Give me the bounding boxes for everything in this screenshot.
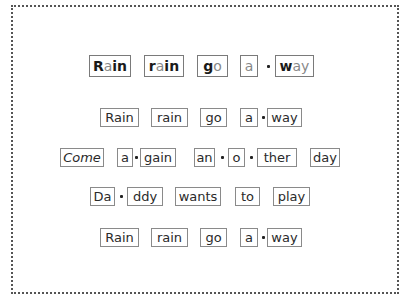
syllable-way: way: [267, 108, 302, 127]
vowel: a: [245, 58, 254, 74]
syllable-way: way: [275, 55, 314, 77]
line-5: Rain rain go a way: [0, 228, 411, 247]
syllable-a: a: [117, 148, 133, 167]
syllable-ther: ther: [257, 148, 297, 167]
word-go: go: [197, 55, 228, 77]
line-1: Rain rain go a way: [0, 55, 411, 77]
line-3: Come a gain an o ther day: [0, 148, 411, 167]
vowel: o: [213, 58, 222, 74]
syllable-da: Da: [90, 187, 115, 206]
word-play: play: [273, 187, 310, 206]
syllable-a: a: [240, 108, 258, 127]
word-rain-2: rain: [151, 108, 188, 127]
vowel: a: [104, 58, 113, 74]
word-come: Come: [60, 148, 104, 167]
line-2: Rain rain go a way: [0, 108, 411, 127]
line-4: Da ddy wants to play: [0, 187, 411, 206]
letter: g: [203, 58, 213, 74]
word-rain-2: rain: [144, 55, 184, 77]
syllable-dot: [262, 116, 265, 119]
syllable-dot: [262, 236, 265, 239]
syllable-dot: [135, 156, 138, 159]
word-rain-1: Rain: [100, 228, 139, 247]
word-day: day: [310, 148, 340, 167]
word-to: to: [235, 187, 260, 206]
word-rain-1: Rain: [100, 108, 139, 127]
vowel: ay: [293, 58, 310, 74]
syllable-dot: [267, 65, 270, 68]
syllable-way: way: [267, 228, 302, 247]
syllable-ddy: ddy: [127, 187, 163, 206]
syllable-a: a: [240, 228, 258, 247]
syllable-a: a: [240, 55, 258, 77]
word-go: go: [200, 108, 227, 127]
word-rain-2: rain: [151, 228, 188, 247]
letter: in: [164, 58, 179, 74]
syllable-an: an: [194, 148, 215, 167]
word-wants: wants: [175, 187, 221, 206]
vowel: a: [156, 58, 165, 74]
letter: R: [93, 58, 104, 74]
syllable-gain: gain: [140, 148, 176, 167]
word-rain-1: Rain: [89, 55, 131, 77]
letter: in: [112, 58, 127, 74]
word-go: go: [200, 228, 227, 247]
letter: w: [280, 58, 293, 74]
syllable-dot: [250, 156, 253, 159]
syllable-dot: [120, 195, 123, 198]
syllable-o: o: [228, 148, 245, 167]
syllable-dot: [221, 156, 224, 159]
letter: r: [149, 58, 156, 74]
